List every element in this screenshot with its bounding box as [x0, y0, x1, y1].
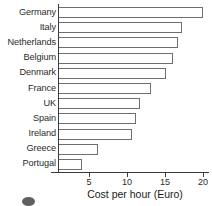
- category-label: Spain: [0, 113, 56, 123]
- page-edge-artifact: [22, 197, 35, 206]
- y-axis-line: [58, 4, 59, 173]
- x-tick-label: 10: [117, 177, 137, 188]
- bar: [58, 37, 178, 48]
- category-label: Ireland: [0, 128, 56, 138]
- category-label: Germany: [0, 7, 56, 17]
- x-axis-line: [51, 172, 209, 173]
- bar-chart: GermanyItalyNetherlandsBelgiumDenmarkFra…: [0, 0, 212, 206]
- bar: [58, 83, 151, 94]
- bar: [58, 68, 166, 79]
- category-label: France: [0, 83, 56, 93]
- category-label: UK: [0, 98, 56, 108]
- bar: [58, 22, 182, 33]
- category-label: Belgium: [0, 52, 56, 62]
- bar: [58, 144, 98, 155]
- plot-area: [58, 5, 212, 172]
- category-label: Netherlands: [0, 37, 56, 47]
- x-tick-label: 15: [155, 177, 175, 188]
- bar: [58, 7, 203, 18]
- category-label: Italy: [0, 22, 56, 32]
- x-axis-title: Cost per hour (Euro): [58, 188, 212, 200]
- bar: [58, 113, 136, 124]
- category-label: Denmark: [0, 67, 56, 77]
- category-label: Greece: [0, 143, 56, 153]
- bar: [58, 159, 82, 170]
- x-tick-label: 20: [193, 177, 212, 188]
- bar: [58, 129, 132, 140]
- x-tick-label: 5: [79, 177, 99, 188]
- category-axis: GermanyItalyNetherlandsBelgiumDenmarkFra…: [0, 5, 56, 172]
- bar: [58, 98, 140, 109]
- bar: [58, 53, 173, 64]
- category-label: Portugal: [0, 158, 56, 168]
